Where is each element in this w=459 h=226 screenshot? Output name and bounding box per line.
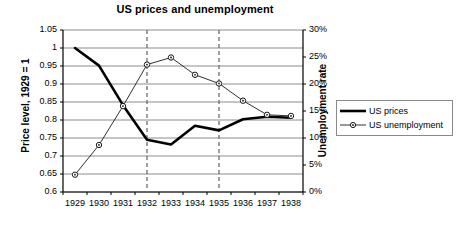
chart-container: US prices and unemployment Price level, …	[0, 0, 459, 226]
data-point	[120, 103, 125, 108]
y-axis-right-tick-label: 30%	[309, 24, 343, 34]
y-axis-right-tick-label: 25%	[309, 51, 343, 61]
chart-legend: US prices US unemployment	[336, 100, 453, 136]
data-point	[288, 113, 293, 118]
data-point	[168, 55, 173, 60]
y-axis-right-tick-label: 0%	[309, 186, 343, 196]
y-axis-left-tick-label: 0.75	[23, 132, 57, 142]
legend-item-us-prices: US prices	[339, 104, 449, 118]
x-axis-tick-label: 1938	[277, 198, 305, 208]
series-line-us-prices	[75, 48, 291, 145]
y-axis-left-tick-label: 1.05	[23, 24, 57, 34]
legend-swatch-thick-line	[339, 105, 367, 117]
y-axis-left-tick-label: 0.65	[23, 168, 57, 178]
data-point	[264, 112, 269, 117]
series-line-us-unemployment	[75, 58, 291, 175]
data-point	[192, 72, 197, 77]
data-point	[72, 172, 77, 177]
data-point	[144, 62, 149, 67]
legend-label-us-prices: US prices	[367, 106, 408, 116]
legend-swatch-marker-line	[339, 119, 367, 131]
data-point	[216, 81, 221, 86]
data-point	[96, 142, 101, 147]
y-axis-left-tick-label: 1	[23, 42, 57, 52]
y-axis-left-tick-label: 0.8	[23, 114, 57, 124]
y-axis-left-tick-label: 0.95	[23, 60, 57, 70]
legend-label-us-unemployment: US unemployment	[367, 120, 443, 130]
data-point	[240, 98, 245, 103]
y-axis-right-tick-label: 5%	[309, 159, 343, 169]
y-axis-left-tick-label: 0.85	[23, 96, 57, 106]
y-axis-right-tick-label: 20%	[309, 78, 343, 88]
y-axis-left-tick-label: 0.7	[23, 150, 57, 160]
y-axis-left-tick-label: 0.6	[23, 186, 57, 196]
legend-item-us-unemployment: US unemployment	[339, 118, 449, 132]
y-axis-left-tick-label: 0.9	[23, 78, 57, 88]
